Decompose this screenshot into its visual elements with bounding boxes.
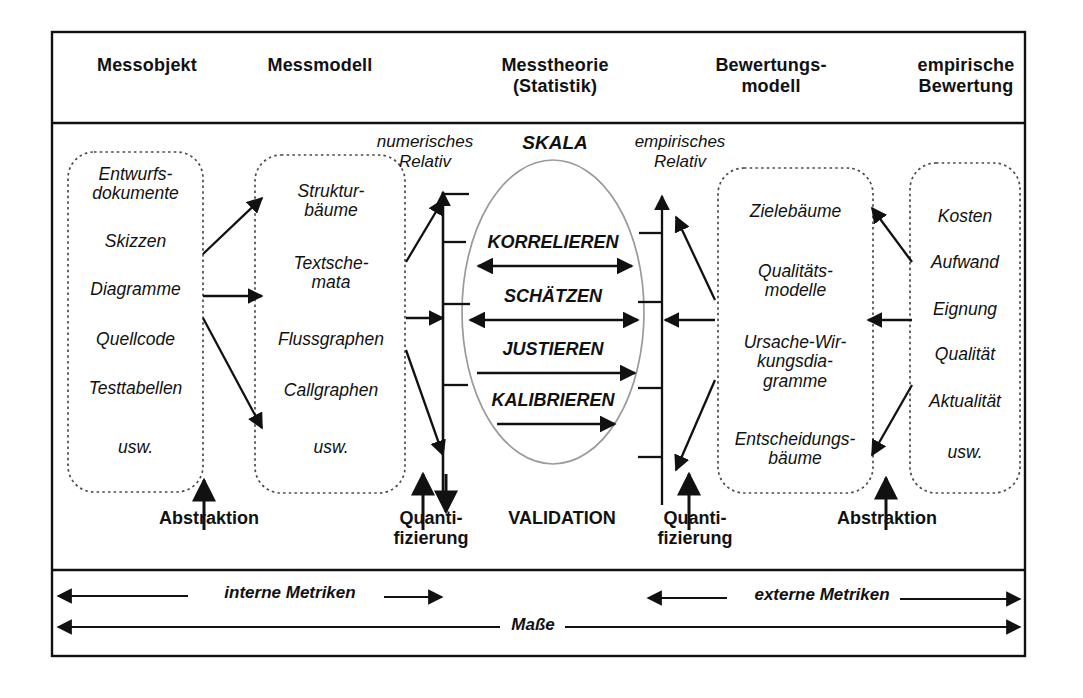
messobjekt-item-3: Quellcode [68, 330, 203, 349]
arrows-messmodell-to-numeric-scale [406, 200, 443, 455]
messobjekt-item-2: Diagramme [68, 280, 203, 299]
annotation-empirisches-relativ: empirisches Relativ [610, 132, 750, 171]
header-messtheorie: Messtheorie (Statistik) [455, 55, 655, 97]
skala-ellipse [462, 160, 644, 464]
empirische-bewertung-item-1: Aufwand [910, 253, 1020, 272]
messmodell-item-4: usw. [257, 438, 405, 457]
empirische-bewertung-item-0: Kosten [910, 207, 1020, 226]
label-quantifizierung-right: Quanti- fizierung [640, 508, 750, 548]
label-masse: Maße [498, 615, 568, 635]
operation-justieren: JUSTIEREN [463, 339, 643, 360]
empirische-bewertung-item-3: Qualität [910, 345, 1020, 364]
messmodell-item-2: Flussgraphen [255, 330, 407, 349]
operation-korrelieren: KORRELIEREN [463, 232, 643, 253]
label-validation: VALIDATION [492, 508, 632, 529]
header-empirische-bewertung: empirische Bewertung [886, 55, 1046, 97]
bewertungsmodell-item-1: Qualitäts- modelle [718, 262, 873, 301]
bewertungsmodell-item-0: Zielebäume [718, 202, 873, 221]
annotation-skala: SKALA [505, 132, 605, 154]
annotation-numerisches-relativ: numerisches Relativ [355, 132, 495, 171]
messobjekt-item-1: Skizzen [68, 232, 203, 251]
bewertungsmodell-item-2: Ursache-Wir- kungsdia- gramme [716, 333, 874, 391]
header-messobjekt: Messobjekt [62, 55, 232, 76]
label-externe-metriken: externe Metriken [732, 585, 912, 605]
header-messmodell: Messmodell [230, 55, 410, 76]
diagram-canvas: Messobjekt Messmodell Messtheorie (Stati… [0, 0, 1083, 698]
messobjekt-item-0: Entwurfs- dokumente [68, 165, 203, 204]
messmodell-item-3: Callgraphen [255, 381, 407, 400]
label-abstraktion-right: Abstraktion [812, 508, 962, 528]
arrows-messobjekt-to-messmodell [203, 198, 262, 428]
messobjekt-item-5: usw. [68, 438, 203, 457]
label-quantifizierung-left: Quanti- fizierung [376, 508, 486, 548]
empirische-bewertung-item-4: Aktualität [908, 392, 1022, 411]
operation-kalibrieren: KALIBRIEREN [463, 390, 643, 411]
messmodell-item-0: Struktur- bäume [257, 182, 405, 221]
bewertungsmodell-item-3: Entscheidungs- bäume [710, 430, 880, 469]
messmodell-item-1: Textsche- mata [257, 254, 405, 293]
operation-schaetzen: SCHÄTZEN [463, 286, 643, 307]
empirische-bewertung-item-2: Eignung [910, 300, 1020, 319]
label-abstraktion-left: Abstraktion [134, 508, 284, 528]
label-interne-metriken: interne Metriken [190, 583, 390, 603]
messobjekt-item-4: Testtabellen [68, 379, 203, 398]
arrows-bewertungsmodell-to-empirical-scale [665, 217, 715, 470]
header-bewertungsmodell: Bewertungs- modell [676, 55, 866, 97]
arrows-empirische-bewertung-to-bewertungsmodell [868, 208, 912, 455]
empirische-bewertung-item-5: usw. [910, 443, 1020, 462]
